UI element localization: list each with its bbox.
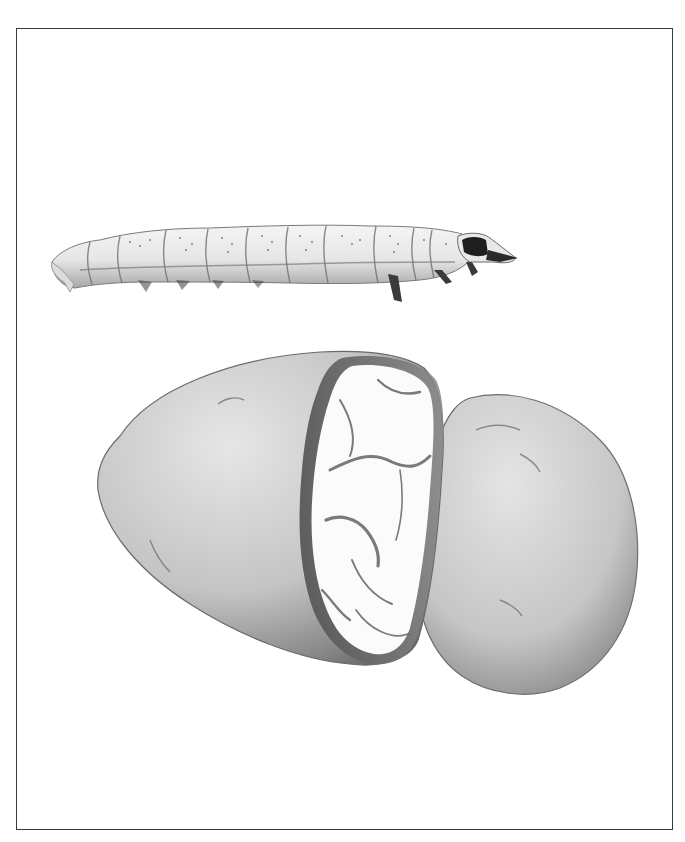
illustration: [0, 0, 685, 842]
larva-drawing: [52, 225, 519, 302]
tuber-right-half: [416, 395, 638, 695]
potato-tuber-drawing: [98, 351, 638, 694]
larva-body: [52, 225, 470, 288]
larva-head: [458, 233, 518, 263]
